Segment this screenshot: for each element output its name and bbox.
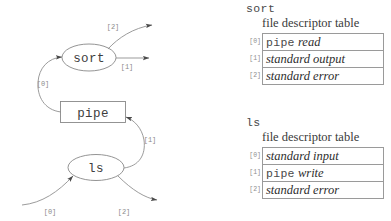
fd-tables-panel: sort file descriptor table [0] pipe read… xyxy=(196,0,391,221)
fd-value-italic: standard error xyxy=(266,183,339,197)
fd-value: pipe write xyxy=(266,166,324,181)
node-sort-label: sort xyxy=(73,52,105,66)
edge-label-sort-stdin: [0] xyxy=(37,80,50,88)
fd-value-italic: read xyxy=(298,35,320,49)
fd-row: [1] standard output xyxy=(263,51,383,68)
fd-row: [0] standard input xyxy=(263,148,383,165)
fd-value-italic: standard output xyxy=(266,52,345,66)
fd-process-name-sort: sort xyxy=(246,2,275,15)
fd-index: [0] xyxy=(246,152,261,159)
fd-value: standard error xyxy=(266,183,339,198)
edge-label-sort-stderr: [2] xyxy=(107,23,120,31)
fd-caption-ls: file descriptor table xyxy=(262,130,359,144)
edge-ls-stdin xyxy=(22,176,73,205)
fd-value-italic: standard input xyxy=(266,149,339,163)
edge-ls-stdout-to-pipe xyxy=(124,117,144,168)
node-ls-label: ls xyxy=(88,162,104,176)
fd-table-ls: [0] standard input [1] pipe write [2] st… xyxy=(262,147,384,199)
fd-process-name-ls: ls xyxy=(246,116,261,129)
fd-value-italic: standard error xyxy=(266,69,339,83)
fd-value: standard input xyxy=(266,149,339,164)
fd-index: [1] xyxy=(246,169,261,176)
edge-label-ls-stdin: [0] xyxy=(44,208,57,216)
fd-caption-sort: file descriptor table xyxy=(262,16,359,30)
fd-row: [1] pipe write xyxy=(263,165,383,182)
edge-label-ls-stderr: [2] xyxy=(118,208,131,216)
edge-label-sort-stdout: [1] xyxy=(121,63,134,71)
fd-row: [2] standard error xyxy=(263,182,383,198)
diagram-canvas: sort pipe ls [2] [1] [0] [1] [0] [2] xyxy=(0,0,196,221)
fd-index: [0] xyxy=(246,38,261,45)
fd-value: standard error xyxy=(266,69,339,84)
fd-value-mono: pipe xyxy=(266,36,295,49)
fd-index: [2] xyxy=(246,186,261,193)
fd-row: [0] pipe read xyxy=(263,34,383,51)
fd-value: standard output xyxy=(266,52,345,67)
fd-table-sort: [0] pipe read [1] standard output [2] st… xyxy=(262,33,384,85)
process-pipe-diagram: sort pipe ls [2] [1] [0] [1] [0] [2] xyxy=(0,0,196,221)
figure-root: sort pipe ls [2] [1] [0] [1] [0] [2] sor… xyxy=(0,0,391,221)
edge-label-ls-stdout: [1] xyxy=(144,136,157,144)
fd-value: pipe read xyxy=(266,35,320,50)
fd-index: [2] xyxy=(246,72,261,79)
fd-value-mono: pipe xyxy=(266,167,295,180)
edge-ls-stderr xyxy=(118,176,157,200)
fd-row: [2] standard error xyxy=(263,68,383,84)
fd-value-italic: write xyxy=(298,166,324,180)
node-pipe-label: pipe xyxy=(77,107,109,121)
fd-index: [1] xyxy=(246,55,261,62)
